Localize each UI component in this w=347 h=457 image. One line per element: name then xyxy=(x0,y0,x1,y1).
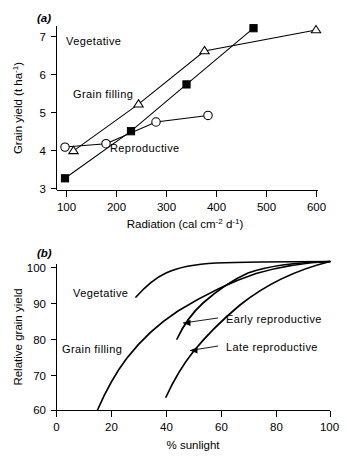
panel-a-tag: (a) xyxy=(37,12,51,24)
panel-b-plot: (b) 100 90 80 70 60 xyxy=(0,232,347,457)
panel-b-xtick-80: 80 xyxy=(270,421,283,433)
panel-b-xtick-0: 0 xyxy=(53,421,59,433)
panel-a-ytick-6: 6 xyxy=(40,69,46,81)
panel-b-x-axis-title: % sunlight xyxy=(166,439,220,451)
data-point-marker xyxy=(204,111,212,119)
panel-a-y-ticks xyxy=(51,37,57,189)
panel-b-ytick-70: 70 xyxy=(33,370,46,382)
series-label-grain-filling-a: Grain filling xyxy=(73,88,133,100)
annotation-early-reproductive: Early reproductive xyxy=(183,313,322,326)
panel-a-xtick-500: 500 xyxy=(257,201,276,213)
panel-a-y-axis-title: Grain yield (t ha-1) xyxy=(11,62,24,154)
curve-early-reproductive-b xyxy=(177,262,330,340)
panel-a-ytick-7: 7 xyxy=(40,31,46,43)
panel-a-ytick-5: 5 xyxy=(40,107,46,119)
panel-a-x-axis-title: Radiation (cal cm-2 d-1) xyxy=(127,217,244,230)
data-point-marker xyxy=(152,118,160,126)
panel-b-tag: (b) xyxy=(37,247,52,259)
data-point-marker xyxy=(61,175,68,182)
data-point-marker xyxy=(311,26,320,33)
panel-a-xtick-200: 200 xyxy=(107,201,126,213)
data-point-marker xyxy=(183,81,190,88)
panel-b-ytick-100: 100 xyxy=(27,262,46,274)
data-point-marker xyxy=(250,25,257,32)
data-point-marker xyxy=(134,100,143,107)
panel-a-xtick-100: 100 xyxy=(57,201,76,213)
data-point-marker xyxy=(61,143,69,151)
series-label-vegetative-a: Vegetative xyxy=(66,35,121,47)
panel-b-y-axis-title: Relative grain yield xyxy=(12,288,24,385)
panel-b-ytick-80: 80 xyxy=(33,334,46,346)
panel-b: (b) 100 90 80 70 60 xyxy=(0,232,347,457)
panel-a-x-ticks xyxy=(67,191,317,198)
panel-b-xtick-20: 20 xyxy=(105,421,118,433)
panel-b-ytick-90: 90 xyxy=(33,298,46,310)
data-point-marker xyxy=(127,128,134,135)
panel-b-x-ticks xyxy=(57,411,331,418)
panel-a-xtick-300: 300 xyxy=(157,201,176,213)
panel-b-xtick-100: 100 xyxy=(320,421,339,433)
panel-a-xtick-600: 600 xyxy=(307,201,326,213)
curve-vegetative-b xyxy=(136,262,330,298)
panel-a-plot: (a) 7 6 5 4 3 xyxy=(0,0,347,232)
panel-b-xtick-40: 40 xyxy=(160,421,173,433)
panel-b-ytick-60: 60 xyxy=(33,404,46,416)
curve-late-reproductive-b xyxy=(166,262,330,398)
series-label-late-reproductive: Late reproductive xyxy=(226,341,318,353)
panel-a-ytick-4: 4 xyxy=(40,145,47,157)
panel-b-y-ticks xyxy=(51,268,57,411)
panel-a-ytick-3: 3 xyxy=(40,183,46,195)
annotation-late-reproductive: Late reproductive xyxy=(190,341,318,354)
data-point-marker xyxy=(69,146,78,153)
figure-container: (a) 7 6 5 4 3 xyxy=(0,0,347,457)
series-label-grain-filling-b: Grain filling xyxy=(62,343,122,355)
series-label-early-reproductive: Early reproductive xyxy=(226,313,322,325)
panel-a-xtick-400: 400 xyxy=(207,201,226,213)
series-label-vegetative-b: Vegetative xyxy=(73,287,128,299)
series-reproductive-a xyxy=(61,25,257,182)
panel-a: (a) 7 6 5 4 3 xyxy=(0,0,347,232)
series-label-reproductive-a: Reproductive xyxy=(110,142,180,154)
panel-b-xtick-60: 60 xyxy=(215,421,228,433)
curve-grain-filling-b xyxy=(98,262,331,411)
